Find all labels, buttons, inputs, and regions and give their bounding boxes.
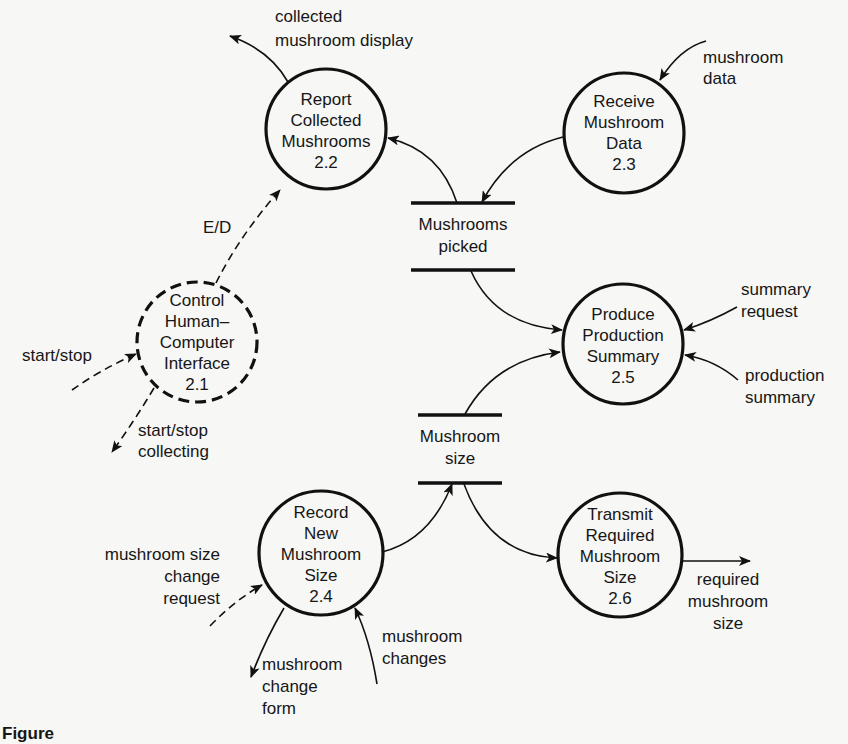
flow-label: collected	[275, 7, 342, 26]
process-label: Record	[294, 503, 349, 522]
flow-label: collecting	[138, 442, 209, 461]
process-label: Human–	[165, 312, 230, 331]
flow-label: mushroom display	[275, 31, 413, 50]
process-2-5-production-summary: Produce Production Summary 2.5	[563, 284, 683, 404]
store-label: size	[445, 449, 475, 468]
flow-label: data	[703, 69, 737, 88]
flow-size-to-summary	[465, 352, 560, 414]
process-label: Size	[603, 568, 636, 587]
flow-mushroom-changes: mushroom changes	[355, 608, 462, 684]
store-mushrooms-picked: Mushrooms picked	[411, 203, 515, 270]
flow-label: summary	[741, 280, 811, 299]
flow-start-stop-collecting: start/stop collecting	[112, 388, 209, 461]
flow-arrow	[684, 307, 737, 330]
process-label: Receive	[593, 92, 654, 111]
flow-mushroom-data: mushroom data	[660, 41, 783, 88]
flow-label: request	[163, 589, 220, 608]
flow-arrow	[465, 352, 560, 414]
process-label: Mushrooms	[282, 132, 371, 151]
flow-mushroom-change-form: mushroom change form	[251, 608, 342, 718]
process-label: Transmit	[587, 505, 653, 524]
flow-label: size	[713, 614, 743, 633]
flow-arrow	[388, 138, 457, 203]
process-label: Mushroom	[584, 113, 664, 132]
flow-label: mushroom size	[105, 545, 220, 564]
process-label: Collected	[291, 111, 362, 130]
process-label: Control	[170, 291, 225, 310]
flow-enable-disable: E/D	[203, 190, 280, 283]
process-number: 2.3	[612, 155, 636, 174]
process-2-4-record-size: Record New Mushroom Size 2.4	[259, 491, 383, 615]
flow-label: start/stop	[22, 346, 92, 365]
flow-label: request	[741, 302, 798, 321]
flow-receive-to-picked	[482, 137, 563, 202]
process-label: Mushroom	[281, 545, 361, 564]
flow-start-stop-in: start/stop	[22, 346, 136, 390]
process-number: 2.5	[611, 368, 635, 387]
process-label: Production	[582, 326, 663, 345]
flow-label: changes	[382, 649, 446, 668]
flow-arrow	[471, 271, 562, 330]
store-label: Mushrooms	[419, 215, 508, 234]
flow-picked-to-report	[388, 138, 457, 203]
flow-label: mushroom	[703, 48, 783, 67]
process-label: Data	[606, 134, 642, 153]
process-number: 2.4	[309, 587, 333, 606]
process-number: 2.1	[185, 375, 209, 394]
process-label: Produce	[591, 305, 654, 324]
flow-size-to-transmit	[464, 484, 557, 558]
flow-label: change	[262, 677, 318, 696]
process-label: Computer	[160, 333, 235, 352]
process-number: 2.2	[314, 153, 338, 172]
process-2-2-report-collected: Report Collected Mushrooms 2.2	[266, 69, 386, 189]
flow-mushroom-size-change-request: mushroom size change request	[105, 545, 262, 626]
flow-label: start/stop	[138, 421, 208, 440]
flow-arrow	[355, 608, 377, 684]
flow-record-to-size	[382, 484, 452, 552]
flow-label: change	[164, 567, 220, 586]
flow-required-mushroom-size: required mushroom size	[682, 561, 768, 633]
figure-caption: Figure	[2, 724, 54, 744]
flow-label: production	[745, 366, 824, 385]
store-label: Mushroom	[420, 427, 500, 446]
process-2-6-transmit-size: Transmit Required Mushroom Size 2.6	[558, 493, 682, 617]
flow-label: E/D	[203, 218, 231, 237]
store-mushroom-size: Mushroom size	[418, 415, 502, 483]
process-circle	[564, 73, 684, 193]
process-label: Size	[304, 566, 337, 585]
process-label: Interface	[164, 354, 230, 373]
flow-arrow	[685, 355, 738, 380]
process-label: Summary	[587, 347, 660, 366]
store-label: picked	[438, 237, 487, 256]
flow-production-summary: production summary	[685, 355, 824, 407]
flow-arrow	[464, 484, 557, 558]
flow-label: mushroom	[262, 655, 342, 674]
flow-arrow	[482, 137, 563, 202]
flow-label: required	[697, 570, 759, 589]
process-label: Report	[300, 90, 351, 109]
flow-arrow	[382, 484, 452, 552]
process-label: New	[304, 524, 339, 543]
flow-summary-request: summary request	[684, 280, 811, 330]
flow-arrow	[660, 41, 706, 80]
process-2-3-receive-data: Receive Mushroom Data 2.3	[564, 73, 684, 193]
process-number: 2.6	[608, 589, 632, 608]
flow-picked-to-summary	[471, 271, 562, 330]
process-label: Required	[586, 526, 655, 545]
process-label: Mushroom	[580, 547, 660, 566]
process-2-1-control-hci: Control Human– Computer Interface 2.1	[137, 282, 257, 402]
flow-label: form	[262, 699, 296, 718]
flow-label: mushroom	[688, 592, 768, 611]
flow-label: mushroom	[382, 627, 462, 646]
flow-label: summary	[745, 388, 815, 407]
